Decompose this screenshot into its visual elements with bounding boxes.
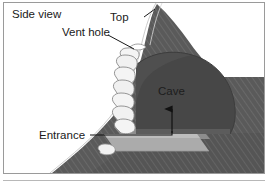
plate-bottom-rule [3,180,265,181]
cave-floor [136,129,230,134]
label-vent-hole: Vent hole [62,26,110,38]
label-top: Top [110,11,129,23]
cave-cross-section-drawing: Side view Top Vent hole Cave Entrance [4,3,264,173]
panel-title: Side view [12,8,62,20]
vent-hole-leader-line [108,35,134,49]
illustration-panel: Side view Top Vent hole Cave Entrance [3,2,265,174]
label-cave: Cave [158,85,185,97]
side-view-cave-figure: Side view Top Vent hole Cave Entrance [0,0,268,191]
entrance-lip-boulder [98,144,115,155]
label-entrance: Entrance [39,129,85,141]
vent-hole-opening [130,44,146,50]
